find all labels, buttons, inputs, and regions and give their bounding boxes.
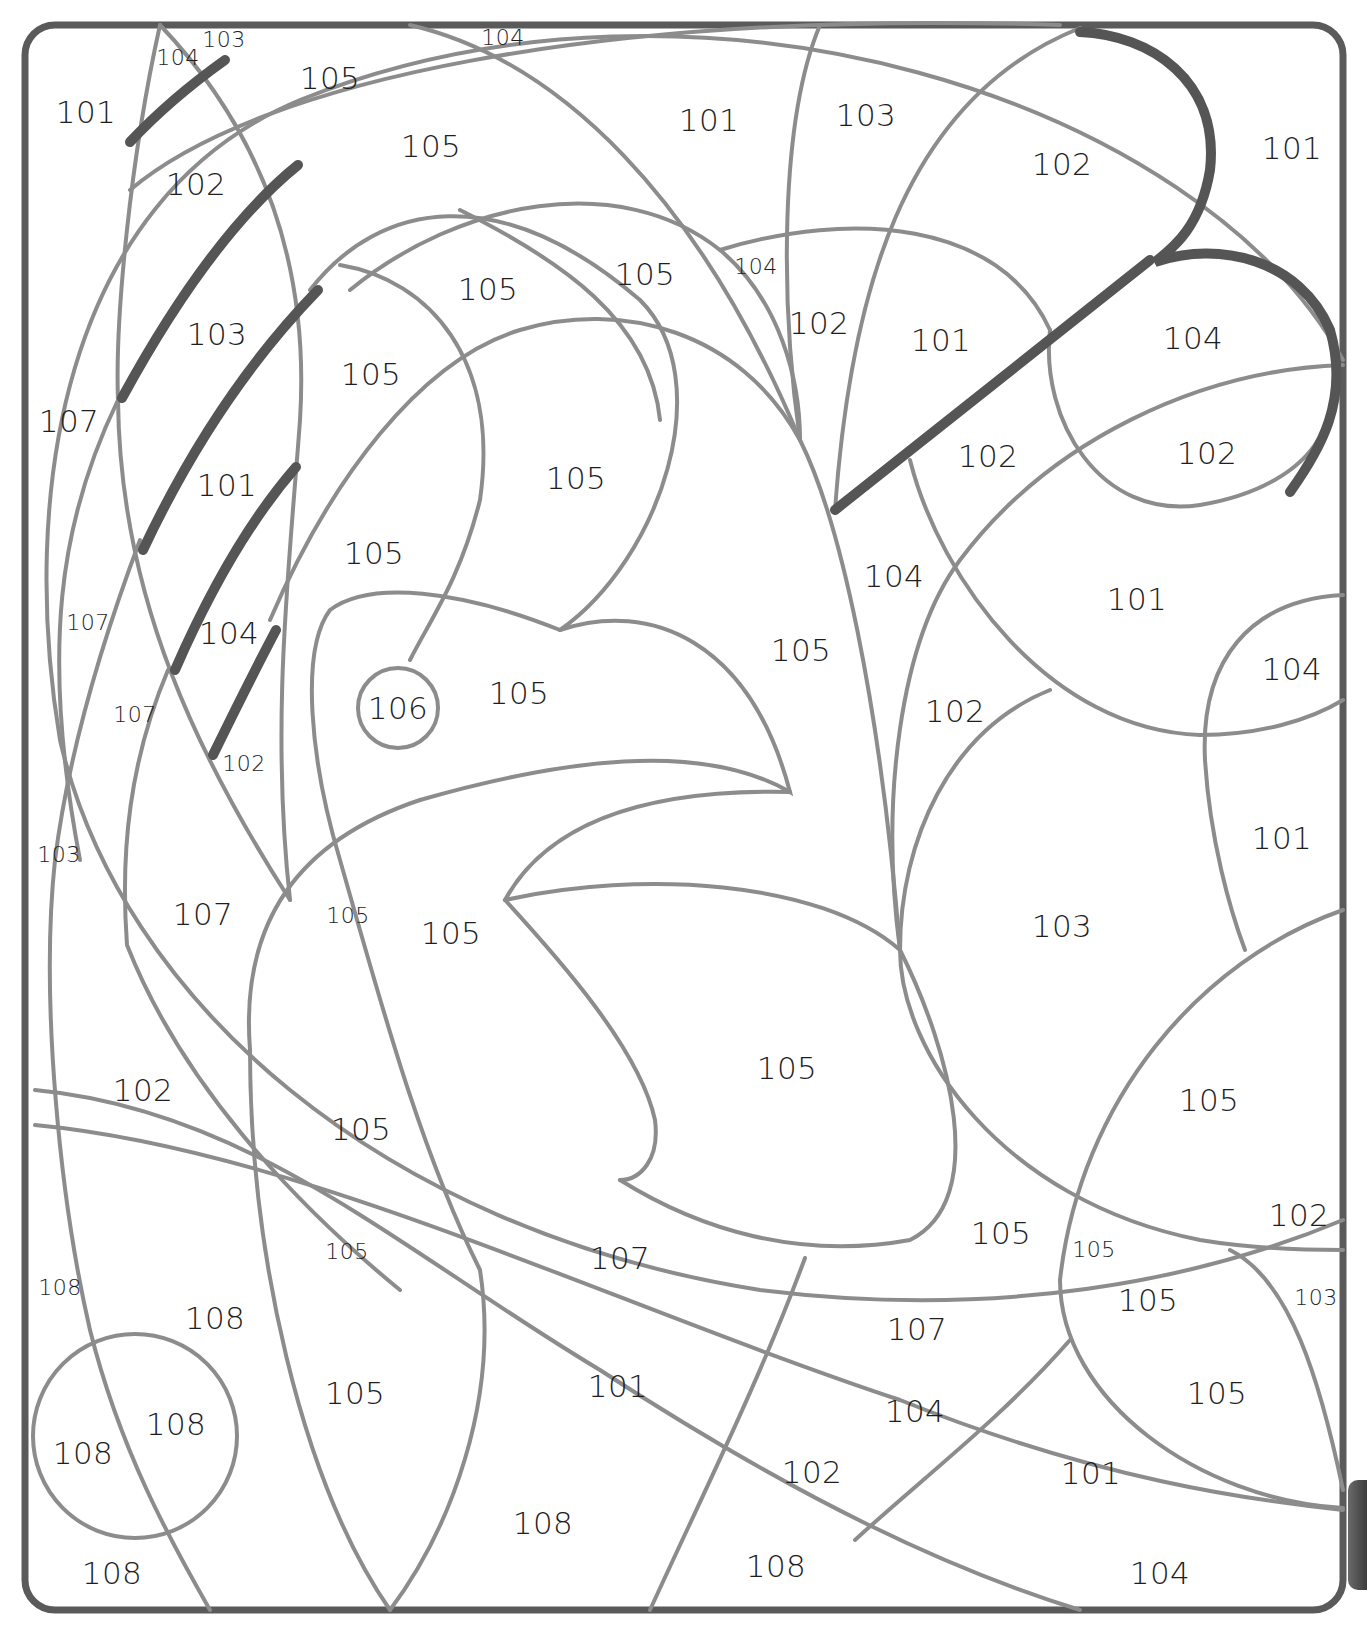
region-number-label: 101 [679, 105, 740, 136]
region-number-label: 105 [546, 463, 607, 494]
region-number-label: 108 [513, 1508, 574, 1539]
region-number-label: 107 [113, 704, 157, 726]
region-number-label: 102 [958, 441, 1019, 472]
region-number-label: 108 [185, 1303, 246, 1334]
region-number-label: 104 [1130, 1558, 1191, 1589]
region-number-label: 101 [1252, 823, 1313, 854]
region-number-label: 108 [746, 1551, 807, 1582]
region-number-label: 108 [146, 1409, 207, 1440]
region-number-label: 103 [1032, 911, 1093, 942]
region-number-label: 101 [1262, 133, 1323, 164]
region-number-label: 102 [1032, 149, 1093, 180]
region-number-label: 104 [1262, 654, 1323, 685]
region-number-label: 101 [197, 470, 258, 501]
region-number-label: 105 [331, 1114, 392, 1145]
bold-strokes [122, 32, 1336, 755]
region-number-label: 107 [590, 1243, 651, 1274]
region-number-label: 104 [156, 47, 200, 69]
region-number-label: 103 [836, 100, 897, 131]
region-number-label: 104 [734, 256, 778, 278]
region-number-label: 105 [1118, 1285, 1179, 1316]
region-number-label: 105 [757, 1053, 818, 1084]
region-number-label: 102 [925, 696, 986, 727]
region-number-label: 107 [173, 899, 234, 930]
region-number-label: 105 [300, 63, 361, 94]
region-number-label: 105 [1072, 1239, 1116, 1261]
region-number-label: 102 [1177, 438, 1238, 469]
region-number-label: 105 [401, 131, 462, 162]
region-number-label: 106 [368, 693, 429, 724]
region-number-label: 105 [325, 1241, 369, 1263]
region-number-label: 107 [66, 612, 110, 634]
region-number-label: 105 [1179, 1085, 1240, 1116]
region-number-label: 105 [1187, 1378, 1248, 1409]
region-number-label: 102 [1269, 1200, 1330, 1231]
region-number-label: 107 [887, 1314, 948, 1345]
region-number-label: 105 [489, 678, 550, 709]
region-number-label: 105 [325, 1378, 386, 1409]
region-number-label: 102 [789, 308, 850, 339]
region-number-label: 105 [615, 259, 676, 290]
region-number-label: 105 [971, 1218, 1032, 1249]
region-number-label: 105 [771, 635, 832, 666]
coloring-page-canvas [0, 0, 1367, 1636]
page-edge-shadow [1348, 1480, 1367, 1590]
region-number-label: 101 [588, 1371, 649, 1402]
region-number-label: 108 [53, 1438, 114, 1469]
region-number-label: 108 [82, 1558, 143, 1589]
region-number-label: 102 [782, 1457, 843, 1488]
region-number-label: 104 [199, 618, 260, 649]
region-number-label: 104 [1163, 323, 1224, 354]
region-number-label: 103 [202, 29, 246, 51]
region-number-label: 105 [421, 918, 482, 949]
region-number-label: 104 [885, 1396, 946, 1427]
region-number-label: 101 [1061, 1458, 1122, 1489]
region-number-label: 105 [326, 905, 370, 927]
region-number-label: 102 [113, 1075, 174, 1106]
region-number-label: 105 [458, 274, 519, 305]
region-number-label: 105 [341, 359, 402, 390]
region-number-label: 103 [37, 844, 81, 866]
region-number-label: 102 [166, 169, 227, 200]
region-number-label: 108 [38, 1277, 82, 1299]
region-number-label: 101 [56, 97, 117, 128]
region-number-label: 103 [1294, 1287, 1338, 1309]
region-number-label: 101 [1107, 584, 1168, 615]
region-number-label: 104 [864, 561, 925, 592]
region-number-label: 101 [911, 325, 972, 356]
region-number-label: 107 [39, 406, 100, 437]
region-number-label: 105 [344, 538, 405, 569]
region-number-label: 103 [187, 319, 248, 350]
region-number-label: 104 [481, 27, 525, 49]
region-number-label: 102 [222, 753, 266, 775]
